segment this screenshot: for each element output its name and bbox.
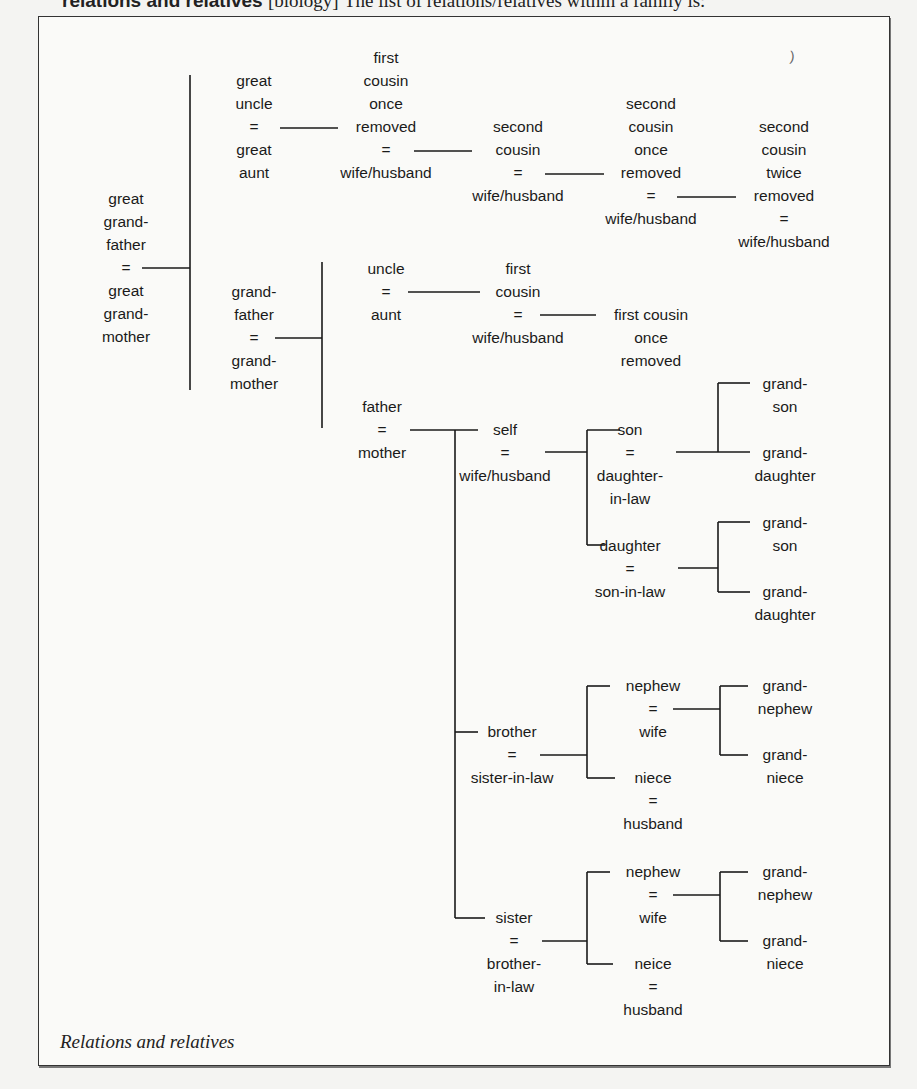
node-line-text: sister [487, 906, 541, 929]
node-line-text: son-in-law [595, 580, 666, 603]
node-uncle: uncle=aunt [367, 257, 404, 326]
node-line-text: cousin [738, 138, 829, 161]
node-line-text: once [614, 326, 688, 349]
node-great-grandparents: greatgrand-father=greatgrand-mother [102, 187, 150, 348]
node-line-text: son [763, 395, 808, 418]
node-line-text: = [623, 975, 682, 998]
node-line-text: = [738, 207, 829, 230]
node-line-text: daughter- [597, 464, 663, 487]
node-line-text: = [459, 441, 550, 464]
node-line-text: son [597, 418, 663, 441]
node-line-text: second [605, 92, 696, 115]
node-line-text: = [472, 303, 563, 326]
node-line-text: = [623, 789, 682, 812]
node-line-text: wife/husband [472, 184, 563, 207]
node-line-text: daughter [595, 534, 666, 557]
node-line-text: son [763, 534, 808, 557]
node-grandson-2: grand-son [763, 511, 808, 557]
node-line-text: removed [738, 184, 829, 207]
node-grandparents: grand-father=grand-mother [230, 280, 278, 395]
node-second-cousin-twice-removed: secondcousintwiceremoved=wife/husband [738, 115, 829, 253]
node-line-text: wife [626, 906, 680, 929]
node-line-text: = [605, 184, 696, 207]
node-second-cousin-once-removed: secondcousinonceremoved=wife/husband [605, 92, 696, 230]
node-line-text: second [472, 115, 563, 138]
node-line-text: husband [623, 998, 682, 1021]
node-son: son=daughter-in-law [597, 418, 663, 510]
figure-caption: Relations and relatives [60, 1031, 235, 1053]
node-grandnephew-2: grand-nephew [758, 860, 812, 906]
node-line-text: great [235, 69, 272, 92]
node-line-text: = [626, 883, 680, 906]
node-line-text: brother- [487, 952, 541, 975]
node-grandniece-2: grand-niece [763, 929, 808, 975]
node-line-text: great [235, 138, 272, 161]
node-first-cousin-once-removed: first cousinonceremoved [614, 303, 688, 372]
node-line-text: cousin [605, 115, 696, 138]
node-line-text: father [230, 303, 278, 326]
node-line-text: daughter [754, 603, 815, 626]
node-line-text: removed [614, 349, 688, 372]
node-line-text: once [340, 92, 431, 115]
node-line-text: aunt [235, 161, 272, 184]
node-line-text: nephew [758, 883, 812, 906]
node-line-text: = [487, 929, 541, 952]
node-line-text: grand- [763, 929, 808, 952]
node-granddaughter-1: grand-daughter [754, 441, 815, 487]
node-great-uncle: greatuncle=greataunt [235, 69, 272, 184]
node-line-text: = [235, 115, 272, 138]
node-line-text: = [471, 743, 554, 766]
node-line-text: cousin [340, 69, 431, 92]
node-granddaughter-2: grand-daughter [754, 580, 815, 626]
node-line-text: husband [623, 812, 682, 835]
node-line-text: uncle [367, 257, 404, 280]
node-niece-2: neice=husband [623, 952, 682, 1021]
node-line-text: father [102, 233, 150, 256]
node-line-text: nephew [758, 697, 812, 720]
node-line-text: first cousin [614, 303, 688, 326]
node-brother: brother=sister-in-law [471, 720, 554, 789]
node-first-cousin-once-removed-top: firstcousinonceremoved=wife/husband [340, 46, 431, 184]
node-sister: sister=brother-in-law [487, 906, 541, 998]
node-line-text: wife/husband [340, 161, 431, 184]
node-line-text: daughter [754, 464, 815, 487]
node-line-text: first [472, 257, 563, 280]
node-line-text: self [459, 418, 550, 441]
node-line-text: niece [763, 952, 808, 975]
node-line-text: uncle [235, 92, 272, 115]
node-line-text: = [367, 280, 404, 303]
node-line-text: = [102, 256, 150, 279]
node-line-text: in-law [597, 487, 663, 510]
node-first-cousin: firstcousin=wife/husband [472, 257, 563, 349]
node-line-text: mother [230, 372, 278, 395]
node-line-text: aunt [367, 303, 404, 326]
node-line-text: in-law [487, 975, 541, 998]
node-line-text: grand- [763, 743, 808, 766]
node-daughter: daughter=son-in-law [595, 534, 666, 603]
node-line-text: first [340, 46, 431, 69]
node-line-text: mother [358, 441, 406, 464]
node-line-text: second [738, 115, 829, 138]
node-line-text: grand- [763, 372, 808, 395]
node-line-text: grand- [754, 441, 815, 464]
node-line-text: brother [471, 720, 554, 743]
node-parents: father=mother [358, 395, 406, 464]
node-line-text: nephew [626, 860, 680, 883]
node-line-text: nephew [626, 674, 680, 697]
node-line-text: great [102, 187, 150, 210]
node-line-text: = [230, 326, 278, 349]
node-line-text: sister-in-law [471, 766, 554, 789]
node-grandson-1: grand-son [763, 372, 808, 418]
node-line-text: cousin [472, 280, 563, 303]
node-line-text: grand- [754, 580, 815, 603]
node-line-text: grand- [230, 280, 278, 303]
node-line-text: niece [623, 766, 682, 789]
node-line-text: removed [340, 115, 431, 138]
node-niece-1: niece=husband [623, 766, 682, 835]
node-line-text: removed [605, 161, 696, 184]
node-line-text: = [597, 441, 663, 464]
node-line-text: = [472, 161, 563, 184]
node-line-text: twice [738, 161, 829, 184]
node-line-text: grand- [102, 302, 150, 325]
node-line-text: grand- [102, 210, 150, 233]
